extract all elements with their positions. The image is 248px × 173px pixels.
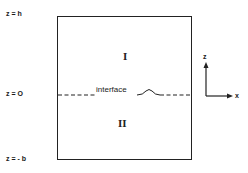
diagram-lines — [0, 0, 248, 173]
axes-icon — [204, 62, 234, 99]
axis-x-label: x — [235, 92, 239, 99]
interface-wave-icon — [137, 90, 160, 96]
axis-z-label: z — [203, 53, 207, 60]
